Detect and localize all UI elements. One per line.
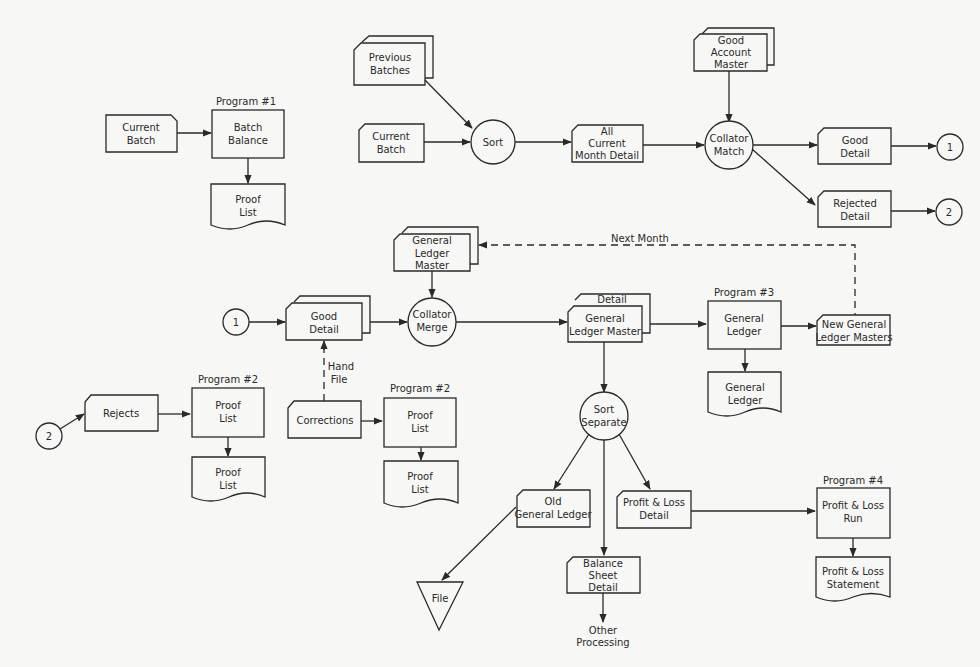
svg-text:Sheet: Sheet	[589, 570, 618, 581]
collator-merge-circle: Collator Merge	[408, 298, 456, 346]
process-batch-balance: Batch Balance	[212, 110, 284, 158]
svg-text:New General: New General	[822, 319, 886, 330]
svg-text:Rejects: Rejects	[103, 408, 139, 419]
svg-text:General Ledger: General Ledger	[514, 509, 592, 520]
connector-1-out: 1	[937, 134, 963, 160]
svg-text:Detail: Detail	[639, 510, 668, 521]
svg-text:Sort: Sort	[483, 137, 504, 148]
other-processing-label: Other	[589, 625, 618, 636]
arrow	[425, 80, 472, 128]
svg-text:Merge: Merge	[416, 322, 447, 333]
svg-text:Profit & Loss: Profit & Loss	[822, 500, 884, 511]
svg-text:File: File	[432, 593, 449, 604]
svg-text:Profit & Loss: Profit & Loss	[623, 497, 685, 508]
svg-text:Master: Master	[415, 260, 450, 271]
svg-text:All: All	[601, 126, 613, 137]
svg-text:Separate: Separate	[581, 417, 626, 428]
card-rejected-detail: Rejected Detail	[818, 191, 891, 227]
process-proof-list-a: Proof List	[192, 388, 264, 437]
svg-text:2: 2	[946, 207, 952, 218]
document-profit-loss-statement: Profit & Loss Statement	[816, 557, 890, 601]
connector-1-in: 1	[223, 309, 249, 335]
program-label: Program #3	[714, 287, 774, 298]
card-deck-previous-batches: Previous Batches	[354, 36, 433, 85]
svg-text:Month Detail: Month Detail	[575, 150, 639, 161]
svg-text:Current: Current	[588, 138, 626, 149]
connector-2-in: 2	[36, 423, 62, 449]
svg-text:Proof: Proof	[407, 471, 433, 482]
program-label: Program #2	[390, 383, 450, 394]
card-deck-good-account-master: Good Account Master	[694, 28, 774, 71]
svg-text:Batch: Batch	[377, 144, 406, 155]
svg-text:Good: Good	[311, 311, 337, 322]
svg-text:Detail: Detail	[597, 294, 626, 305]
arrow	[442, 507, 516, 580]
card-new-general-ledger-masters: New General Ledger Masters	[815, 315, 892, 345]
offline-file-triangle: File	[417, 582, 463, 630]
document-general-ledger: General Ledger	[708, 372, 781, 416]
svg-text:Ledger: Ledger	[727, 326, 762, 337]
card-rejects: Rejects	[85, 395, 158, 431]
svg-text:Batches: Batches	[370, 65, 410, 76]
card-current-batch-2: Current Batch	[359, 124, 424, 162]
connector-2-out: 2	[936, 199, 962, 225]
document-proof-list-1: Proof List	[211, 184, 285, 229]
svg-text:List: List	[411, 423, 429, 434]
svg-text:Statement: Statement	[827, 579, 880, 590]
collator-match-circle: Collator Match	[705, 121, 753, 169]
svg-text:General: General	[724, 313, 763, 324]
svg-text:1: 1	[947, 142, 953, 153]
card-all-current-month-detail: All Current Month Detail	[572, 125, 643, 162]
svg-text:Ledger Masters: Ledger Masters	[815, 332, 892, 343]
next-month-label: Next Month	[611, 233, 669, 244]
card-balance-sheet-detail: Balance Sheet Detail	[567, 557, 640, 593]
svg-text:Proof: Proof	[215, 467, 241, 478]
process-profit-loss-run: Profit & Loss Run	[817, 488, 890, 538]
svg-text:List: List	[239, 207, 257, 218]
card-corrections: Corrections	[288, 401, 361, 438]
svg-text:General: General	[585, 313, 624, 324]
svg-text:Batch: Batch	[234, 122, 263, 133]
svg-text:2: 2	[46, 431, 52, 442]
program-label: Program #1	[216, 96, 276, 107]
svg-text:General: General	[725, 382, 764, 393]
card-deck-good-detail-in: Good Detail	[286, 296, 370, 340]
svg-text:Ledger: Ledger	[728, 395, 763, 406]
svg-text:Current: Current	[122, 122, 160, 133]
svg-text:List: List	[219, 480, 237, 491]
flowchart-canvas: Current Batch Program #1 Batch Balance P…	[0, 0, 980, 667]
arrow	[619, 434, 650, 489]
card-profit-loss-detail: Profit & Loss Detail	[617, 491, 691, 528]
process-proof-list-b: Proof List	[384, 398, 456, 447]
svg-text:General: General	[412, 235, 451, 246]
arrow	[752, 149, 815, 205]
sort-circle: Sort	[471, 120, 515, 164]
svg-text:Good: Good	[718, 35, 744, 46]
svg-text:Ledger Master: Ledger Master	[569, 326, 642, 337]
svg-text:List: List	[219, 413, 237, 424]
sort-separate-circle: Sort Separate	[580, 392, 628, 440]
svg-text:Collator: Collator	[413, 309, 453, 320]
svg-text:Proof: Proof	[407, 410, 433, 421]
svg-text:Detail: Detail	[309, 324, 338, 335]
arrow	[60, 414, 84, 429]
svg-text:Account: Account	[711, 47, 751, 58]
svg-text:1: 1	[233, 317, 239, 328]
svg-text:Old: Old	[545, 496, 562, 507]
hand-file-label: File	[331, 374, 348, 385]
card-old-general-ledger: Old General Ledger	[514, 490, 592, 527]
hand-file-label: Hand	[328, 361, 354, 372]
svg-text:Rejected: Rejected	[833, 198, 877, 209]
svg-text:Corrections: Corrections	[297, 415, 354, 426]
svg-text:Match: Match	[714, 146, 745, 157]
svg-text:Proof: Proof	[215, 400, 241, 411]
next-month-feedback-line	[480, 245, 855, 320]
other-processing-label: Processing	[576, 637, 629, 648]
svg-text:Detail: Detail	[840, 211, 869, 222]
document-proof-list-a: Proof List	[192, 457, 265, 501]
svg-text:List: List	[411, 484, 429, 495]
card-good-detail-out: Good Detail	[818, 128, 891, 164]
svg-text:Run: Run	[843, 513, 862, 524]
card-current-batch-1: Current Batch	[106, 115, 177, 152]
card-deck-detail-general-ledger-master: Detail General Ledger Master	[568, 294, 650, 342]
